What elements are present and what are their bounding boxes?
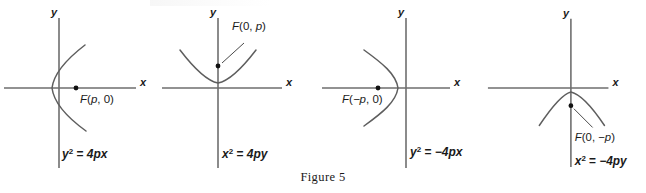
equation-rhs: −4py	[599, 154, 628, 168]
equation-equals: =	[233, 147, 247, 161]
equation-equals: =	[73, 147, 87, 161]
panel-parabola-opens-down: y x F(0, −p) x2 = −4py	[482, 0, 644, 170]
figure-caption: Figure 5	[0, 170, 646, 185]
panel-parabola-opens-up: y x F(0, p) x2 = 4py	[160, 0, 322, 170]
equation-equals: =	[421, 145, 435, 159]
focus-label-close: )	[110, 93, 114, 105]
y-axis-label: y	[209, 6, 217, 18]
equation-label: y2 = −4px	[409, 145, 464, 159]
y-axis-label: y	[562, 7, 570, 19]
equation-rhs: −4px	[435, 145, 464, 159]
focus-label-close: )	[262, 20, 266, 32]
x-axis-label: x	[139, 76, 147, 88]
focus-point-dot	[216, 64, 221, 69]
equation-rhs: 4px	[86, 147, 109, 161]
equation-label: x2 = 4py	[221, 147, 269, 161]
panel-parabola-opens-right: y x F(p, 0) y2 = 4px	[0, 0, 162, 170]
focus-label: F(−p, 0)	[342, 93, 383, 105]
y-axis-label: y	[397, 6, 405, 18]
focus-label: F(0, −p)	[575, 131, 615, 143]
panel-row: y x F(p, 0) y2 = 4px y x	[0, 0, 646, 170]
focus-point-dot	[569, 103, 574, 108]
focus-label-close: )	[611, 131, 615, 143]
x-axis-label: x	[285, 76, 293, 88]
equation-label: x2 = −4py	[574, 154, 628, 168]
focus-leader-line	[222, 43, 244, 63]
focus-label: F(0, p)	[232, 20, 266, 32]
equation-label: y2 = 4px	[61, 147, 109, 161]
x-axis-label: x	[453, 76, 461, 88]
focus-label-coord1: −p	[353, 93, 367, 105]
focus-point-dot	[74, 86, 79, 91]
x-axis-label: x	[611, 76, 619, 88]
focus-label: F(p, 0)	[80, 93, 114, 105]
y-axis-label: y	[50, 6, 58, 18]
focus-label-coord2: −p	[598, 131, 611, 143]
focus-label-close: )	[379, 93, 383, 105]
figure-5-parabolas: y x F(p, 0) y2 = 4px y x	[0, 0, 646, 193]
parabola-curve	[539, 92, 604, 126]
equation-equals: =	[586, 154, 600, 168]
equation-rhs: 4py	[246, 147, 269, 161]
focus-point-dot	[376, 86, 381, 91]
panel-parabola-opens-left: y x F(−p, 0) y2 = −4px	[320, 0, 482, 170]
focus-leader-line	[574, 109, 593, 128]
